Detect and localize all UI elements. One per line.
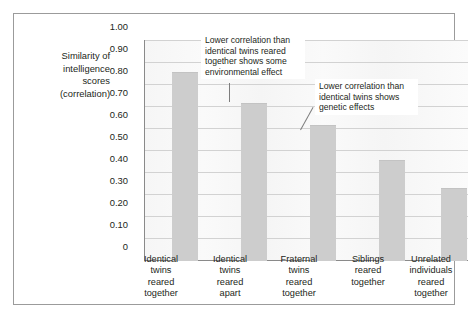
- annotation-genetic-effects: Lower correlation than identical twins s…: [315, 79, 418, 115]
- ytick-label-0.70: 0.70: [88, 88, 128, 98]
- ytick-label-1.00: 1.00: [88, 22, 128, 32]
- xlabel-identical-twins-together: Identical twins reared together: [130, 254, 192, 300]
- figure-container: Similarity of intelligence scores (corre…: [0, 0, 470, 324]
- ytick-label-0.40: 0.40: [88, 154, 128, 164]
- xlabel-siblings-together: Siblings reared together: [337, 254, 399, 288]
- annotation-leader-line-1: [229, 83, 230, 102]
- xlabel-fraternal-twins-together: Fraternal twins reared together: [268, 254, 330, 300]
- bar-identical-twins-apart: [241, 103, 267, 261]
- ytick-label-0.30: 0.30: [88, 176, 128, 186]
- ytick-label-0.10: 0.10: [88, 220, 128, 230]
- bar-siblings-together: [379, 160, 405, 261]
- bar-unrelated-individuals: [441, 188, 467, 261]
- plot-area: [144, 40, 468, 261]
- bar-fraternal-twins-together: [310, 125, 336, 261]
- ytick-label-0.90: 0.90: [88, 44, 128, 54]
- ytick-label-0.50: 0.50: [88, 132, 128, 142]
- gridline-0.90: [145, 62, 468, 63]
- ytick-label-0: 0: [88, 242, 128, 252]
- bar-identical-twins-together: [172, 72, 198, 261]
- xlabel-identical-twins-apart: Identical twins reared apart: [199, 254, 261, 300]
- annotation-environmental-effect: Lower correlation than identical twins r…: [201, 33, 305, 79]
- gridline-1.00: [145, 40, 468, 41]
- ytick-label-0.80: 0.80: [88, 66, 128, 76]
- ytick-label-0.20: 0.20: [88, 198, 128, 208]
- xlabel-unrelated-individuals: Unrelated individuals reared together: [400, 254, 462, 300]
- ytick-label-0.60: 0.60: [88, 110, 128, 120]
